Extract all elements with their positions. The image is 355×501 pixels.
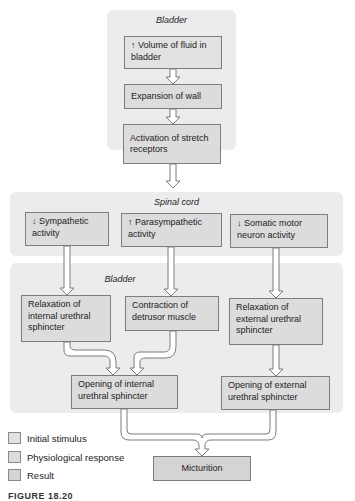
figure-caption: FIGURE 18.20	[8, 491, 73, 501]
legend-swatch-result	[8, 469, 21, 481]
activation-box: Activation of stretch receptors	[123, 124, 221, 164]
relax-internal-box: Relaxation of internal urethral sphincte…	[21, 295, 111, 342]
legend-label-result: Result	[27, 470, 54, 481]
parasympathetic-box: ↑ Parasympathetic activity	[121, 213, 222, 247]
bladder-bottom-title: Bladder	[90, 274, 150, 284]
relax-external-box: Relaxation of external urethral sphincte…	[229, 298, 323, 345]
volume-box: ↑ Volume of fluid in bladder	[124, 36, 222, 69]
legend-label-initial: Initial stimulus	[27, 433, 87, 444]
spinal-cord-title: Spinal cord	[10, 197, 343, 207]
legend-initial-stimulus: Initial stimulus	[8, 432, 87, 444]
micturition-box: Micturition	[153, 456, 251, 481]
legend-label-physiological: Physiological response	[27, 452, 124, 463]
arrow-activation-spinal	[166, 164, 180, 188]
expansion-box: Expansion of wall	[124, 84, 222, 109]
legend-swatch-physiological	[8, 451, 21, 463]
legend-result: Result	[8, 469, 54, 481]
legend-physiological-response: Physiological response	[8, 451, 124, 463]
contraction-box: Contraction of detrusor muscle	[125, 296, 219, 331]
sympathetic-box: ↓ Sympathetic activity	[25, 212, 109, 246]
legend-swatch-initial	[8, 432, 21, 444]
open-internal-box: Opening of internal urethral sphincter	[71, 375, 178, 409]
somatic-box: ↓ Somatic motor neuron activity	[230, 214, 328, 248]
arrow-opens-micturition	[121, 409, 276, 456]
open-external-box: Opening of external urethral sphincter	[221, 376, 330, 410]
bladder-top-title: Bladder	[107, 15, 236, 25]
